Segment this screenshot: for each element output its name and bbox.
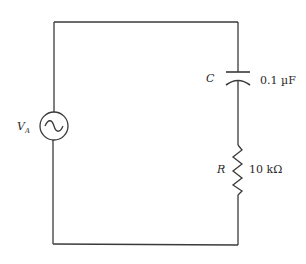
resistor-label: R — [217, 164, 225, 175]
wire-bottom — [53, 244, 238, 245]
sine-wave-icon — [45, 121, 63, 132]
source-label-main: V — [17, 120, 25, 133]
capacitor-value: 0.1 µF — [260, 75, 296, 86]
capacitor-label: C — [206, 73, 214, 84]
resistor-value: 10 kΩ — [249, 164, 282, 175]
circuit-wiring — [0, 0, 306, 264]
source-label: VA — [17, 121, 30, 135]
resistor-zigzag — [233, 145, 242, 195]
circuit-diagram: VA C 0.1 µF R 10 kΩ — [0, 0, 306, 264]
source-label-subscript: A — [25, 127, 30, 135]
